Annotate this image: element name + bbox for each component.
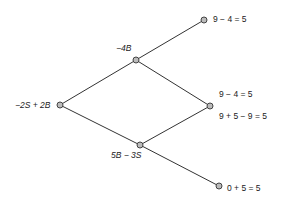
edge-up-top (136, 20, 204, 60)
node-leaf-mid (207, 103, 213, 109)
node-root (57, 102, 63, 108)
leaf-mid-label-bottom: 9 + 5 − 9 = 5 (219, 112, 267, 121)
leaf-top-label: 9 − 4 = 5 (213, 15, 247, 24)
edge-up-mid (136, 60, 210, 106)
edge-root-up (60, 60, 136, 105)
leaf-bottom-label: 0 + 5 = 5 (227, 184, 261, 193)
up-node-label: −4B (116, 44, 131, 53)
down-node-label: 5B − 3S (111, 151, 141, 160)
node-leaf-top (201, 17, 207, 23)
edge-down-bottom (140, 145, 219, 186)
edge-root-down (60, 105, 140, 145)
edge-down-mid (140, 106, 210, 145)
node-down (137, 142, 143, 148)
root-label: −2S + 2B (15, 101, 50, 110)
leaf-mid-label-top: 9 − 4 = 5 (219, 90, 253, 99)
node-leaf-bottom (216, 183, 222, 189)
node-up (133, 57, 139, 63)
